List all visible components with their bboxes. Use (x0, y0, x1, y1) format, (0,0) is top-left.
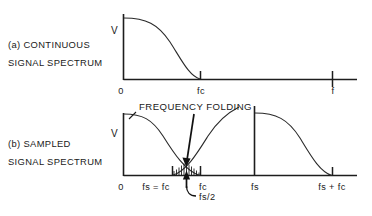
fs-half-label: fs/2 (199, 192, 215, 202)
panel-a-xtick-label-f: f (332, 86, 335, 96)
frequency-folding-annotation: FREQUENCY FOLDING (139, 101, 252, 112)
panel-b-xtick-label-fs: fs (251, 182, 259, 192)
frequency-folding-leader-left (129, 112, 136, 119)
panel-a-caption-line1: (a) CONTINUOUS (8, 39, 90, 50)
panel-b-y-axis-label: V (111, 128, 118, 139)
panel-b-xtick-label-fc: fc (199, 182, 207, 192)
frequency-folding-arrow-shaft (187, 114, 194, 160)
panel-b-folded-alias-curve (172, 107, 239, 176)
panel-b-xtick-label-0: 0 (118, 182, 124, 192)
panel-b-caption-line1: (b) SAMPLED (8, 138, 71, 149)
figure-canvas: (a) CONTINUOUS SIGNAL SPECTRUM V 0 fc f … (0, 0, 372, 216)
panel-b-xtick-label-fs-plus-fc: fs + fc (318, 182, 346, 192)
panel-b-fs-image-curve (255, 113, 332, 176)
panel-b-caption-line2: SIGNAL SPECTRUM (8, 156, 103, 167)
signal-spectrum-figure: (a) CONTINUOUS SIGNAL SPECTRUM V 0 fc f … (0, 0, 372, 216)
panel-a-xtick-label-fc: fc (197, 86, 205, 96)
panel-a-xtick-label-0: 0 (118, 86, 124, 96)
fs-half-leader-line (187, 186, 197, 196)
panel-a-y-axis-label: V (111, 25, 118, 36)
panel-a-continuous-spectrum: (a) CONTINUOUS SIGNAL SPECTRUM V 0 fc f (8, 14, 357, 96)
panel-a-caption-line2: SIGNAL SPECTRUM (8, 57, 103, 68)
panel-a-spectrum-curve (124, 18, 200, 79)
panel-b-sampled-spectrum: (b) SAMPLED SIGNAL SPECTRUM V (8, 101, 357, 202)
panel-b-xtick-label-fs-minus-fc: fs = fc (142, 182, 170, 192)
